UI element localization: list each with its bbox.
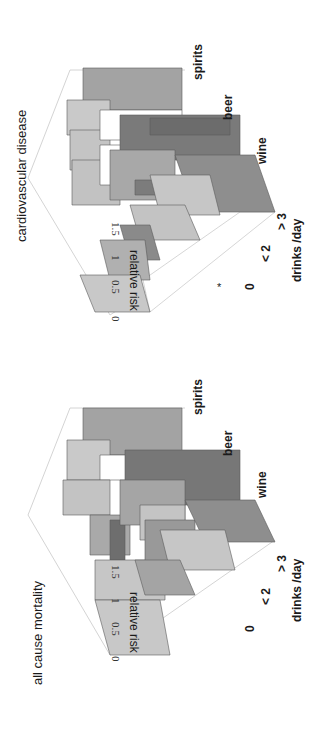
z-tick-1-5: 1.5: [110, 565, 122, 579]
z-axis-label: relative risk: [127, 592, 141, 654]
significance-asterisk: *: [217, 281, 222, 293]
z-tick-1: 1: [110, 255, 122, 261]
x-tick-lt2: < 2: [259, 245, 273, 262]
x-tick-lt2: < 2: [259, 588, 273, 605]
z-tick-1-5: 1.5: [110, 222, 122, 236]
z-tick-0: 0: [110, 316, 122, 322]
x-tick-gt3: > 3: [275, 213, 289, 230]
x-tick-0: 0: [243, 283, 257, 290]
x-axis-label: drinks /day: [290, 218, 304, 282]
x-axis-label: drinks /day: [290, 558, 304, 622]
chart-cardiovascular-svg: 0 0.5 1 1.5 relative risk cardiovascular…: [0, 0, 323, 360]
chart-panel-cardiovascular: 0 0.5 1 1.5 relative risk cardiovascular…: [0, 0, 323, 360]
y-tick-beer: beer: [221, 430, 235, 456]
y-tick-spirits: spirits: [191, 44, 205, 80]
chart-title-cardiovascular: cardiovascular disease: [14, 110, 29, 242]
y-tick-spirits: spirits: [191, 379, 205, 415]
z-tick-0: 0: [110, 656, 122, 662]
z-tick-0-5: 0.5: [110, 622, 122, 636]
z-tick-1: 1: [110, 598, 122, 604]
chart-title-all-cause: all cause mortality: [30, 580, 45, 685]
z-tick-0-5: 0.5: [110, 280, 122, 294]
x-tick-gt3: > 3: [275, 555, 289, 572]
chart-panel-all-cause: 0 0.5 1 1.5 relative risk all cause mort…: [0, 360, 323, 729]
y-tick-beer: beer: [221, 94, 235, 120]
x-tick-0: 0: [243, 625, 257, 632]
chart-all-cause-svg: 0 0.5 1 1.5 relative risk all cause mort…: [0, 360, 323, 729]
y-tick-wine: wine: [255, 137, 269, 165]
z-axis-label: relative risk: [127, 250, 141, 312]
y-tick-wine: wine: [255, 471, 269, 499]
